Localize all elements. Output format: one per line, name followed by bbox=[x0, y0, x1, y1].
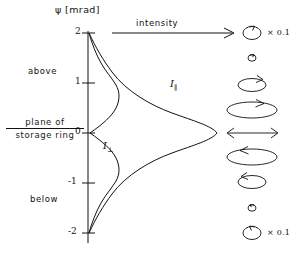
polarization-state-psi-neg0p5 bbox=[227, 147, 277, 166]
polarization-state-psi-2 bbox=[243, 26, 261, 39]
polarization-state-psi-0p5 bbox=[227, 100, 277, 119]
polarization-state-psi-1 bbox=[238, 76, 266, 92]
polarization-state-psi-neg2 bbox=[243, 226, 261, 239]
figure-vector-canvas bbox=[0, 0, 303, 257]
synchrotron-polarization-figure: above plane of storage ring below ψ [mra… bbox=[0, 0, 303, 257]
polarization-state-psi-neg1 bbox=[238, 173, 266, 189]
polarization-state-psi-neg1p5 bbox=[248, 205, 256, 212]
intensity-arrow bbox=[112, 28, 234, 38]
curve-i-parallel bbox=[89, 33, 217, 233]
polarization-state-psi-0 bbox=[227, 128, 278, 138]
polarization-state-psi-1p5 bbox=[248, 55, 256, 62]
